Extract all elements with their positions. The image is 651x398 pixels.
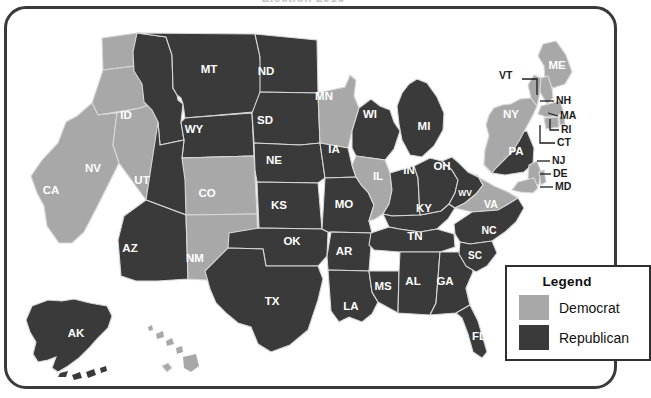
- state-label-nv: NV: [85, 162, 101, 174]
- state-label-la: LA: [343, 300, 358, 312]
- legend-label-republican: Republican: [559, 331, 629, 345]
- state-label-mo: MO: [335, 198, 354, 210]
- state-label-mi: MI: [418, 120, 431, 132]
- state-label-mt: MT: [201, 63, 218, 75]
- state-label-sc: SC: [468, 250, 482, 261]
- state-label-va: VA: [484, 198, 498, 210]
- legend-swatch-republican: [519, 325, 549, 350]
- state-label-nm: NM: [186, 252, 204, 264]
- state-label-ok: OK: [283, 235, 301, 247]
- state-label-ut: UT: [134, 174, 149, 186]
- state-label-in: IN: [403, 164, 415, 176]
- state-label-nc: NC: [481, 224, 497, 236]
- state-label-ks: KS: [271, 199, 287, 211]
- legend-title: Legend: [507, 274, 649, 289]
- state-label-wv: WV: [458, 188, 472, 198]
- state-hi-island-2: [166, 338, 174, 346]
- state-callout-label-ma: MA: [560, 109, 577, 121]
- state-label-hi: HI: [169, 369, 179, 380]
- state-label-wa: WA: [75, 50, 94, 62]
- state-label-ia: IA: [328, 143, 340, 155]
- legend-item-democrat: Democrat: [519, 295, 649, 320]
- legend-swatch-democrat: [519, 295, 549, 320]
- state-label-nd: ND: [258, 65, 275, 77]
- state-label-ga: GA: [436, 275, 453, 287]
- state-label-mn: MN: [315, 90, 333, 102]
- state-co[interactable]: [182, 156, 257, 215]
- state-ca[interactable]: [31, 103, 119, 243]
- state-md[interactable]: [512, 178, 538, 193]
- state-label-or: OR: [61, 90, 79, 102]
- state-label-az: AZ: [122, 242, 137, 254]
- state-label-ny: NY: [503, 108, 519, 120]
- state-label-co: CO: [198, 187, 215, 199]
- state-label-tx: TX: [265, 295, 280, 307]
- state-mi[interactable]: [397, 79, 444, 157]
- state-nd[interactable]: [255, 34, 318, 93]
- state-ks[interactable]: [257, 182, 322, 229]
- state-de[interactable]: [539, 170, 546, 185]
- state-ak-island-3: [100, 366, 107, 373]
- state-label-id: ID: [120, 109, 132, 121]
- state-callout-label-vt: VT: [499, 69, 513, 81]
- state-ne[interactable]: [254, 143, 325, 183]
- state-label-pa: PA: [508, 145, 523, 157]
- state-callout-label-nj: NJ: [552, 154, 566, 166]
- state-ak-island-2: [86, 369, 96, 378]
- state-label-sd: SD: [257, 114, 273, 126]
- state-callout-label-nh: NH: [556, 94, 571, 106]
- state-label-ar: AR: [336, 245, 353, 257]
- state-ak-island-1: [72, 372, 82, 380]
- state-label-ak: AK: [68, 327, 85, 339]
- state-callout-label-ct: CT: [557, 136, 572, 148]
- state-callout-label-de: DE: [553, 167, 568, 179]
- state-callout-label-md: MD: [555, 180, 572, 192]
- state-ct[interactable]: [544, 117, 559, 129]
- state-label-oh: OH: [433, 160, 450, 172]
- state-hi-island-0: [148, 325, 153, 331]
- state-label-wy: WY: [185, 123, 204, 135]
- state-hi-island-4: [183, 354, 199, 372]
- state-label-ms: MS: [374, 280, 392, 292]
- state-label-al: AL: [405, 275, 420, 287]
- state-ak-island-0: [58, 371, 68, 377]
- state-label-ne: NE: [266, 154, 282, 166]
- legend-label-democrat: Democrat: [559, 301, 620, 315]
- state-wy[interactable]: [181, 113, 254, 158]
- state-label-fl: FL: [472, 330, 486, 342]
- state-hi-island-1: [156, 331, 164, 339]
- legend: Legend Democrat Republican: [505, 265, 651, 361]
- state-label-me: ME: [548, 59, 566, 71]
- state-callout-label-ri: RI: [561, 123, 572, 135]
- state-label-ky: KY: [416, 202, 432, 214]
- state-label-il: IL: [373, 170, 383, 182]
- state-hi-island-3: [176, 346, 183, 354]
- state-label-ca: CA: [43, 184, 60, 196]
- state-label-wi: WI: [363, 108, 377, 120]
- legend-item-republican: Republican: [519, 325, 649, 350]
- state-az[interactable]: [118, 200, 188, 281]
- state-label-tn: TN: [407, 230, 422, 242]
